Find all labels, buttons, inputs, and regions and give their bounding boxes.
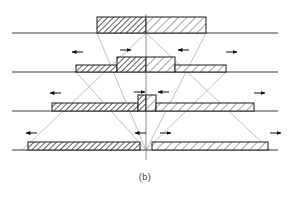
workpiece-blocks-group — [28, 17, 268, 150]
guide-inner-right — [146, 33, 206, 150]
stage-3-boss-right — [146, 95, 156, 111]
stage-3 — [52, 95, 254, 111]
stage-1-block-dense — [97, 17, 146, 33]
stage-2-flank-left — [76, 65, 117, 72]
figure-container: (b) — [0, 0, 290, 198]
stage-1-block-sparse — [146, 17, 206, 33]
figure-caption: (b) — [0, 172, 290, 182]
stage-4-half-left — [28, 142, 140, 150]
stage-2-flank-right — [175, 65, 226, 72]
stage-2 — [76, 57, 226, 72]
stage-1 — [97, 17, 206, 33]
stage-3-boss-left — [138, 95, 146, 111]
stage-3-plate-left — [52, 103, 138, 111]
guide-outer-left — [22, 33, 146, 150]
stage-3-plate-right — [156, 103, 254, 111]
stage-4-half-right — [152, 142, 268, 150]
diagram-canvas — [0, 0, 290, 198]
stage-2-crown-left — [117, 57, 146, 72]
stage-2-crown-right — [146, 57, 175, 72]
